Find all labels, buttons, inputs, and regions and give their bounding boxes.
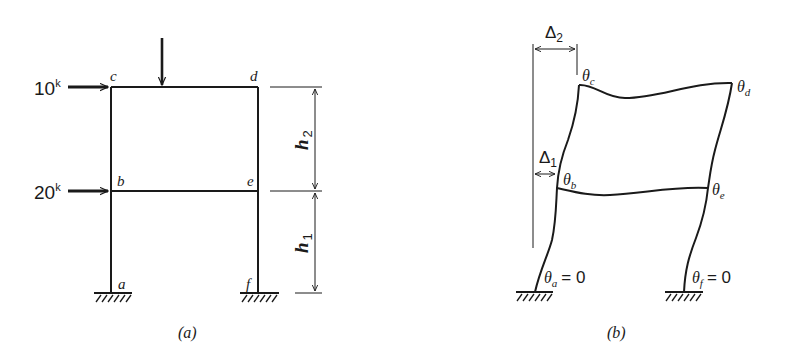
rotation-label-theta-f: θf= 0 xyxy=(692,268,731,289)
figure-a-undeformed-frame: 10k 20k c d b e a f h2 h1 xyxy=(34,38,322,342)
rotation-label-theta-e: θe xyxy=(712,181,725,201)
node-label-a: a xyxy=(118,276,126,292)
figure-a-caption: (a) xyxy=(178,324,197,342)
deformed-beam-be xyxy=(557,188,708,196)
fixed-support-f-deformed xyxy=(665,292,703,301)
dimension-label-h1: h1 xyxy=(291,233,315,253)
dimension-label-h2: h2 xyxy=(291,130,315,150)
fixed-support-f xyxy=(240,293,279,302)
node-label-e: e xyxy=(247,173,254,189)
displacement-label-delta2: Δ2 xyxy=(545,23,563,45)
displacement-label-delta1: Δ1 xyxy=(539,148,557,170)
deformed-column-de xyxy=(708,83,732,188)
rotation-label-theta-d: θd xyxy=(737,78,751,98)
node-label-f: f xyxy=(246,276,252,292)
load-label-20k: 20k xyxy=(34,181,61,203)
node-label-b: b xyxy=(117,173,125,189)
node-label-c: c xyxy=(110,68,117,84)
fixed-support-a-deformed xyxy=(516,292,553,301)
figure-b-deformed-frame: Δ2 Δ1 θc θd θb θe θa= 0 θf= 0 xyxy=(516,23,751,342)
rotation-label-theta-b: θb xyxy=(563,171,577,191)
fixed-support-a xyxy=(94,293,132,302)
deformed-beam-cd xyxy=(579,83,732,98)
node-label-d: d xyxy=(250,68,258,84)
rotation-label-theta-c: θc xyxy=(582,67,595,87)
rotation-label-theta-a: θa= 0 xyxy=(544,268,585,289)
figure-b-caption: (b) xyxy=(607,324,626,342)
load-label-10k: 10k xyxy=(34,77,61,99)
